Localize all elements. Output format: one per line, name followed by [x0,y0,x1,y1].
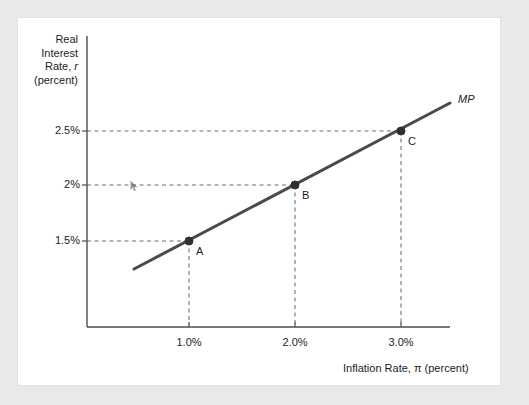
y-axis-title-line3: Rate, r [14,60,78,74]
figure-root: Real Interest Rate, r (percent) 2.5% 2% … [0,0,529,405]
mp-curve-label: MP [458,93,475,107]
point-label-a: A [196,245,203,259]
mouse-cursor-icon [130,180,139,192]
data-point-a [185,237,193,245]
y-tick-label-2-5: 2.5% [28,124,80,138]
data-point-c [397,127,405,135]
y-tick-label-2: 2% [28,178,80,192]
x-axis-title: Inflation Rate, π (percent) [343,362,469,376]
x-tick-label-3-0: 3.0% [378,336,424,350]
x-axis-title-prefix: Inflation Rate, [343,362,414,374]
y-axis-title-line4: (percent) [14,74,78,88]
y-axis-title: Real Interest Rate, r (percent) [14,33,78,87]
x-axis-title-suffix: (percent) [422,362,469,374]
y-axis-title-line3-text: Rate, [45,60,74,72]
y-axis-title-line1: Real [14,33,78,47]
point-label-c: C [408,135,416,149]
chart-canvas [0,0,529,405]
y-axis-title-variable-r: r [74,60,78,72]
x-tick-label-2-0: 2.0% [272,336,318,350]
y-tick-label-1-5: 1.5% [28,234,80,248]
y-axis-title-line2: Interest [14,47,78,61]
data-point-b [291,181,299,189]
x-axis-title-symbol-pi: π [414,362,422,374]
point-label-b: B [302,189,309,203]
x-tick-label-1-0: 1.0% [166,336,212,350]
